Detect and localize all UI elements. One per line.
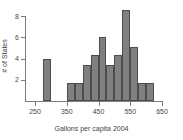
histogram-bar <box>138 83 146 101</box>
histogram-chart: 2468 250350450550650 # of States Gallons… <box>0 0 183 140</box>
histogram-bar <box>43 59 51 102</box>
histogram-bar <box>99 37 107 101</box>
x-axis-title: Gallons per capita 2004 <box>0 125 183 133</box>
histogram-bar <box>146 83 154 101</box>
bars-layer <box>0 0 183 140</box>
histogram-bar <box>83 65 91 101</box>
histogram-bar <box>130 47 138 101</box>
histogram-bar <box>122 10 130 101</box>
plot-area: 2468 250350450550650 <box>0 0 183 140</box>
y-axis-title: # of States <box>1 30 9 82</box>
histogram-bar <box>67 83 75 101</box>
histogram-bar <box>106 65 114 101</box>
histogram-bar <box>114 55 122 101</box>
histogram-bar <box>75 83 83 101</box>
histogram-bar <box>91 55 99 101</box>
